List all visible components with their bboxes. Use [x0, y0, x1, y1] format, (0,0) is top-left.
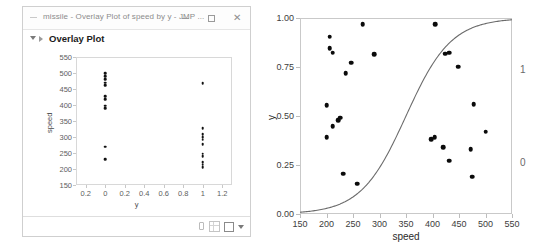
close-icon[interactable]: ✕ [224, 7, 250, 29]
y-axis-tick-label: 450 [59, 85, 72, 94]
red-triangle-icon[interactable] [39, 35, 45, 41]
x-axis-tick [486, 214, 487, 218]
data-point [104, 75, 107, 78]
data-point [201, 127, 204, 130]
x-axis-tick [327, 214, 328, 218]
x-axis-label: speed [392, 231, 419, 242]
x-axis-tick-label: 1 [201, 189, 205, 198]
secondary-axis-tick-label: 0 [520, 157, 526, 168]
y-axis-tick-label: 550 [59, 53, 72, 62]
x-axis-tick [406, 214, 407, 218]
data-point [432, 135, 437, 140]
data-point [324, 103, 329, 108]
x-axis-tick-label: 0.4 [139, 189, 149, 198]
data-point [331, 50, 336, 55]
hand-tool-icon[interactable] [196, 222, 205, 231]
jmp-window: missile - Overlay Plot of speed by y - J… [22, 6, 251, 237]
data-point [360, 22, 365, 27]
y-axis-tick-label: 0.25 [264, 160, 294, 170]
y-axis-tick [73, 185, 76, 186]
x-axis-tick-label: 250 [345, 219, 360, 229]
data-point [104, 145, 107, 148]
data-point [104, 158, 107, 161]
y-axis-tick-label: 0.75 [264, 62, 294, 72]
x-axis-tick-label: 200 [319, 219, 334, 229]
data-point [372, 52, 377, 57]
x-axis-tick-label: 450 [451, 219, 466, 229]
x-axis-tick [164, 185, 165, 188]
x-axis-tick-label: 0.8 [178, 189, 188, 198]
window-controls: ✕ [172, 7, 250, 29]
x-axis-tick-label: 0.2 [81, 189, 91, 198]
data-point [355, 181, 360, 186]
y-axis-tick [73, 153, 76, 154]
data-point [456, 64, 461, 69]
y-axis-tick-label: 350 [59, 117, 72, 126]
y-axis-tick [296, 165, 300, 166]
square-icon[interactable] [224, 222, 234, 232]
y-axis-tick [73, 73, 76, 74]
data-point [104, 95, 107, 98]
y-axis-tick [73, 169, 76, 170]
secondary-axis-tick-label: 1 [520, 63, 526, 74]
window-statusbar [23, 216, 250, 236]
y-axis-tick-label: 400 [59, 101, 72, 110]
disclosure-triangle-icon[interactable] [30, 36, 36, 40]
x-axis-tick-label: 150 [292, 219, 307, 229]
x-axis-tick [105, 185, 106, 188]
x-axis-tick-label: 550 [504, 219, 519, 229]
data-point [327, 34, 332, 39]
data-point [349, 60, 354, 65]
data-point [447, 51, 452, 56]
data-point [447, 158, 452, 163]
x-axis-tick-label: 1.2 [217, 189, 227, 198]
data-point [201, 166, 204, 169]
y-axis-tick [296, 116, 300, 117]
minimize-icon[interactable] [172, 7, 198, 29]
x-axis-tick [183, 185, 184, 188]
data-point [341, 172, 346, 177]
window-titlebar[interactable]: missile - Overlay Plot of speed by y - J… [23, 7, 250, 30]
data-point [343, 71, 348, 76]
document-icon [30, 14, 37, 21]
data-point [338, 115, 343, 120]
y-axis-tick-label: 500 [59, 69, 72, 78]
data-point [104, 84, 107, 87]
screenshot-root: missile - Overlay Plot of speed by y - J… [0, 0, 553, 248]
x-axis-tick [300, 214, 301, 218]
overlay-plot-frame [76, 57, 232, 185]
x-axis-tick [125, 185, 126, 188]
data-point [331, 124, 336, 129]
data-point [104, 78, 107, 81]
logistic-plot-area: 0.000.250.500.751.0015020025030035040045… [262, 6, 553, 244]
data-point [201, 155, 204, 158]
y-axis-tick-label: 250 [59, 149, 72, 158]
y-axis-tick-label: 300 [59, 133, 72, 142]
caret-down-icon[interactable] [238, 225, 244, 229]
overlay-plot-area: 1502002503003504004505005500.200.20.40.6… [23, 49, 250, 217]
x-axis-tick [433, 214, 434, 218]
data-point [441, 145, 446, 150]
overlay-plot-header: Overlay Plot [23, 29, 250, 49]
x-axis-tick-label: 300 [372, 219, 387, 229]
x-axis-tick [203, 185, 204, 188]
panel-heading: Overlay Plot [49, 33, 104, 44]
data-point [104, 98, 107, 101]
y-axis-tick [73, 57, 76, 58]
x-axis-tick [222, 185, 223, 188]
y-axis-label: y [266, 115, 277, 120]
x-axis-tick [86, 185, 87, 188]
statusbar-icons [196, 221, 244, 232]
y-axis-tick-label: 200 [59, 165, 72, 174]
data-point [433, 22, 438, 27]
y-axis-tick [73, 89, 76, 90]
x-axis-tick-label: 0.6 [159, 189, 169, 198]
maximize-icon[interactable] [198, 7, 224, 29]
y-axis-label: speed [45, 113, 54, 133]
data-point [468, 147, 473, 152]
data-point [201, 143, 204, 146]
x-axis-tick [380, 214, 381, 218]
data-point [472, 102, 477, 107]
grid-icon[interactable] [209, 221, 220, 232]
data-point [324, 135, 329, 140]
